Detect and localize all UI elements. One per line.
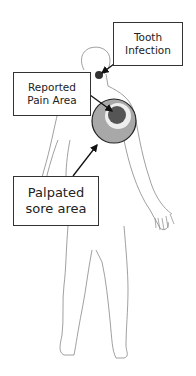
- tooth-infection-label: Tooth Infection: [113, 22, 183, 66]
- reported-pain-label: Reported Pain Area: [13, 72, 91, 116]
- palpated-sore-label: Palpated sore area: [13, 176, 99, 226]
- reported-pain-line1: Reported: [28, 81, 76, 94]
- torso-right-outline: [106, 74, 172, 214]
- tooth-infection-line2: Infection: [125, 44, 171, 57]
- right-hand-outline: [155, 214, 174, 230]
- tooth-infection-marker: [95, 71, 103, 79]
- tooth-infection-line1: Tooth: [134, 31, 162, 44]
- palpated-sore-line1: Palpated: [28, 185, 84, 201]
- reported-pain-area-circle: [108, 106, 126, 124]
- right-leg-outline: [96, 226, 128, 358]
- palpated-sore-arrow: [73, 145, 97, 176]
- reported-pain-line2: Pain Area: [27, 94, 76, 107]
- left-leg-outline: [60, 226, 92, 355]
- right-arm-outline: [124, 140, 168, 230]
- palpated-sore-line2: sore area: [26, 201, 87, 217]
- left-arm-outline: [46, 140, 70, 180]
